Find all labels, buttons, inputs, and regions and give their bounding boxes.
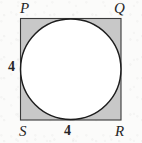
vertex-label-r: R xyxy=(115,124,124,139)
vertex-label-q: Q xyxy=(114,1,125,16)
inscribed-circle xyxy=(21,19,121,119)
vertex-label-s: S xyxy=(19,124,27,139)
side-length-label-bottom: 4 xyxy=(64,124,71,138)
vertex-label-p: P xyxy=(20,1,29,16)
figure-canvas xyxy=(0,0,142,143)
side-length-label-left: 4 xyxy=(8,60,15,74)
geometry-figure: P Q S R 4 4 xyxy=(0,0,142,143)
